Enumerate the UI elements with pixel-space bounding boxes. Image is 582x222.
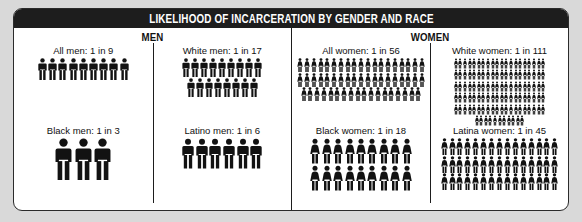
person-icon — [419, 73, 425, 87]
person-icon — [486, 58, 490, 69]
person-icon — [509, 92, 513, 103]
person-icon — [310, 138, 320, 164]
person-icon — [464, 173, 471, 190]
person-icon — [496, 138, 503, 155]
person-icon — [187, 78, 195, 97]
person-icon — [528, 138, 535, 155]
person-icon — [358, 58, 364, 72]
section-title-women: WOMEN — [309, 28, 552, 43]
person-icon — [500, 92, 504, 103]
person-icon — [504, 69, 508, 80]
person-icon — [79, 58, 88, 80]
men-quadrants: All men: 1 in 9 Black men: 1 in 3 White … — [14, 43, 291, 203]
group-label: All men: 1 in 9 — [53, 45, 113, 56]
person-icon — [333, 138, 343, 164]
person-icon — [500, 104, 504, 115]
person-icon — [481, 81, 485, 92]
person-icon — [481, 69, 485, 80]
person-icon — [504, 58, 508, 69]
person-icon — [456, 173, 463, 190]
person-icon — [491, 69, 495, 80]
person-icon — [527, 92, 531, 103]
person-icon — [412, 58, 418, 72]
group-label: Black men: 1 in 3 — [47, 125, 120, 136]
person-icon — [402, 138, 412, 164]
person-icon — [468, 81, 472, 92]
person-icon — [254, 58, 262, 77]
women-left-column: All women: 1 in 56 Black women: 1 in 18 — [292, 43, 430, 203]
person-icon — [528, 156, 535, 173]
person-icon — [528, 173, 535, 190]
person-icon — [351, 73, 357, 87]
person-icon — [472, 58, 476, 69]
person-icon — [486, 69, 490, 80]
person-icon — [463, 81, 467, 92]
person-icon — [75, 138, 92, 180]
person-icon — [551, 173, 558, 190]
person-icon — [209, 58, 217, 77]
person-icon — [486, 81, 490, 92]
person-icon — [48, 58, 57, 80]
group-white-women: White women: 1 in 111 — [433, 43, 566, 123]
person-icon — [69, 58, 78, 80]
person-icon — [382, 87, 388, 101]
group-label: Latino men: 1 in 6 — [184, 125, 260, 136]
person-icon — [333, 165, 343, 191]
group-all-women: All women: 1 in 56 — [294, 43, 428, 123]
person-icon — [463, 69, 467, 80]
person-icon — [449, 173, 456, 190]
women-right-column: White women: 1 in 111 Latina women: 1 in… — [430, 43, 568, 203]
person-icon — [541, 92, 545, 103]
person-icon — [532, 81, 536, 92]
person-icon — [458, 92, 462, 103]
person-icon — [532, 58, 536, 69]
person-icon — [345, 73, 351, 87]
person-icon — [472, 138, 479, 155]
person-icon — [504, 92, 508, 103]
person-icon — [532, 92, 536, 103]
person-icon — [495, 92, 499, 103]
person-icon — [324, 58, 330, 72]
pictogram-white-women — [452, 58, 546, 127]
person-icon — [468, 58, 472, 69]
person-icon — [402, 165, 412, 191]
infographic-panel: LIKELIHOOD OF INCARCERATION BY GENDER AN… — [13, 8, 569, 211]
person-icon — [518, 104, 522, 115]
person-icon — [491, 104, 495, 115]
person-icon — [58, 58, 67, 80]
person-icon — [456, 156, 463, 173]
person-icon — [402, 87, 408, 101]
person-icon — [191, 58, 199, 77]
person-icon — [94, 138, 111, 180]
person-icon — [236, 58, 244, 77]
person-icon — [338, 58, 344, 72]
person-icon — [543, 173, 550, 190]
person-icon — [518, 69, 522, 80]
person-icon — [378, 58, 384, 72]
person-icon — [321, 87, 327, 101]
person-icon — [318, 73, 324, 87]
group-label: White men: 1 in 17 — [183, 45, 262, 56]
person-icon — [392, 58, 398, 72]
person-icon — [454, 92, 458, 103]
person-icon — [390, 165, 400, 191]
pictogram-white-men — [181, 58, 264, 98]
person-icon — [399, 58, 405, 72]
person-icon — [472, 92, 476, 103]
person-icon — [458, 69, 462, 80]
person-icon — [518, 81, 522, 92]
person-icon — [468, 69, 472, 80]
person-icon — [367, 165, 377, 191]
person-icon — [297, 58, 303, 72]
person-icon — [345, 138, 355, 164]
person-icon — [449, 156, 456, 173]
person-icon — [385, 73, 391, 87]
person-icon — [504, 138, 511, 155]
group-label: All women: 1 in 56 — [322, 45, 400, 56]
person-icon — [495, 81, 499, 92]
person-icon — [481, 92, 485, 103]
person-icon — [495, 58, 499, 69]
person-icon — [523, 58, 527, 69]
person-icon — [227, 58, 235, 77]
person-icon — [551, 138, 558, 155]
